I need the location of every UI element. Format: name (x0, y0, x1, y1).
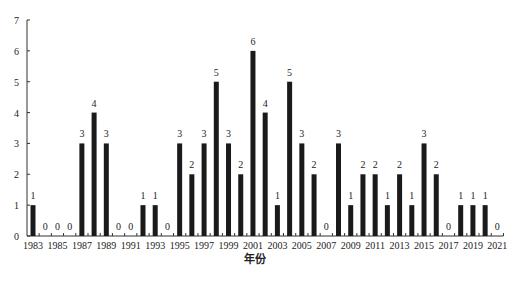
bar (250, 51, 255, 236)
bar-value-label: 2 (189, 159, 194, 170)
bar-value-label: 4 (263, 98, 268, 109)
bar (287, 82, 292, 236)
x-tick-label: 2009 (341, 240, 361, 251)
x-tick-label: 1989 (96, 240, 116, 251)
x-tick-label: 1991 (121, 240, 141, 251)
bar-value-label: 1 (458, 190, 463, 201)
bar (385, 205, 390, 236)
bar-value-label: 3 (226, 128, 231, 139)
bar (238, 174, 243, 236)
x-tick-label: 2021 (487, 240, 507, 251)
bar-value-label: 0 (446, 221, 451, 232)
bar-value-label: 2 (360, 159, 365, 170)
y-tick-label: 2 (14, 169, 19, 180)
x-tick-label: 1997 (194, 240, 214, 251)
x-tick-label: 1995 (170, 240, 190, 251)
bar-value-label: 3 (79, 128, 84, 139)
bar (104, 143, 109, 236)
bar-value-label: 6 (250, 36, 255, 47)
x-tick-label: 1983 (23, 240, 43, 251)
bar (202, 143, 207, 236)
bar-value-label: 0 (324, 221, 329, 232)
y-tick-label: 0 (14, 231, 19, 242)
bar (214, 82, 219, 236)
bar-value-label: 0 (128, 221, 133, 232)
bar (470, 205, 475, 236)
x-tick-label: 2015 (414, 240, 434, 251)
bar-value-label: 2 (373, 159, 378, 170)
bar-value-label: 1 (348, 190, 353, 201)
x-tick-label: 2011 (365, 240, 385, 251)
bar (153, 205, 158, 236)
bar-value-label: 0 (55, 221, 60, 232)
bar (189, 174, 194, 236)
bar-value-label: 2 (434, 159, 439, 170)
bar-value-label: 3 (336, 128, 341, 139)
bar-value-label: 1 (31, 190, 36, 201)
chart-canvas: 01234567 1983198519871989199119931995199… (0, 0, 519, 282)
bar-chart: 01234567 1983198519871989199119931995199… (0, 0, 519, 282)
bar-value-label: 1 (409, 190, 414, 201)
x-tick-label: 2017 (438, 240, 458, 251)
x-tick-label: 2019 (463, 240, 483, 251)
bar-value-label: 1 (153, 190, 158, 201)
y-tick-label: 6 (14, 46, 19, 57)
bar-value-label: 5 (287, 67, 292, 78)
x-tick-label: 1985 (47, 240, 67, 251)
bar-value-label: 5 (214, 67, 219, 78)
x-tick-label: 2003 (267, 240, 287, 251)
y-tick-label: 7 (14, 15, 19, 26)
bar (360, 174, 365, 236)
bar (226, 143, 231, 236)
bar-value-label: 1 (483, 190, 488, 201)
bar-value-label: 1 (275, 190, 280, 201)
bar (483, 205, 488, 236)
bar-value-label: 2 (238, 159, 243, 170)
y-tick-label: 1 (14, 200, 19, 211)
bar (373, 174, 378, 236)
bar (409, 205, 414, 236)
bar-value-label: 3 (104, 128, 109, 139)
bar (140, 205, 145, 236)
x-tick-label: 2007 (316, 240, 336, 251)
x-tick-label: 1999 (219, 240, 239, 251)
bar (263, 113, 268, 236)
bar (422, 143, 427, 236)
bar (458, 205, 463, 236)
bars (31, 51, 488, 236)
bar (299, 143, 304, 236)
y-tick-label: 3 (14, 138, 19, 149)
bar (312, 174, 317, 236)
bar-value-label: 3 (202, 128, 207, 139)
bar-value-label: 0 (116, 221, 121, 232)
x-tick-label: 1993 (145, 240, 165, 251)
bar (177, 143, 182, 236)
x-axis-title: 年份 (244, 252, 267, 265)
bar-value-label: 2 (312, 159, 317, 170)
bar-value-label: 3 (422, 128, 427, 139)
bar (397, 174, 402, 236)
bar-value-label: 2 (397, 159, 402, 170)
y-tick-label: 5 (14, 77, 19, 88)
bar (275, 205, 280, 236)
y-axis: 01234567 (14, 15, 30, 242)
bar-value-label: 0 (495, 221, 500, 232)
bar-value-label: 3 (177, 128, 182, 139)
bar (336, 143, 341, 236)
x-tick-label: 2005 (292, 240, 312, 251)
bar (92, 113, 97, 236)
bar (434, 174, 439, 236)
bar-value-label: 0 (67, 221, 72, 232)
bar (31, 205, 36, 236)
x-tick-label: 2001 (243, 240, 263, 251)
bar-value-label: 3 (299, 128, 304, 139)
bar (79, 143, 84, 236)
bar-value-label: 0 (165, 221, 170, 232)
x-tick-label: 1987 (72, 240, 92, 251)
bar-value-label: 4 (92, 98, 97, 109)
bar-value-label: 1 (470, 190, 475, 201)
bar (348, 205, 353, 236)
y-tick-label: 4 (14, 108, 19, 119)
bar-value-label: 1 (385, 190, 390, 201)
bar-value-label: 0 (43, 221, 48, 232)
